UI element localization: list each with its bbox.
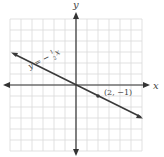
svg-text:y = −: y = − — [26, 53, 51, 72]
x-axis-arrow-right — [143, 82, 150, 88]
x-axis-arrow-left — [3, 82, 10, 88]
y-axis-arrow-up — [73, 12, 79, 19]
y-axis-arrow-down — [73, 149, 79, 156]
coordinate-plane: x y y = − 1 2 x (2, −1) — [0, 0, 164, 157]
point-label: (2, −1) — [104, 88, 132, 97]
point-marker — [96, 94, 100, 98]
x-axis-label: x — [153, 80, 159, 91]
y-axis-label: y — [72, 0, 79, 10]
